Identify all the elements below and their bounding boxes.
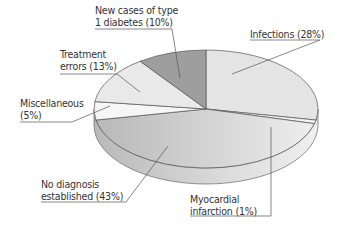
slice-infections	[206, 50, 318, 120]
label-myocardial-infarction: Myocardial infarction (1%)	[190, 193, 257, 217]
label-new-cases-type1-diabetes: New cases of type 1 diabetes (10%)	[95, 4, 178, 28]
label-miscellaneous: Miscellaneous (5%)	[20, 97, 84, 121]
label-infections: Infections (28%)	[250, 28, 324, 40]
pie-top-face	[94, 50, 318, 168]
label-no-diagnosis-established: No diagnosis established (43%)	[41, 178, 123, 202]
label-treatment-errors: Treatment errors (13%)	[60, 48, 117, 72]
